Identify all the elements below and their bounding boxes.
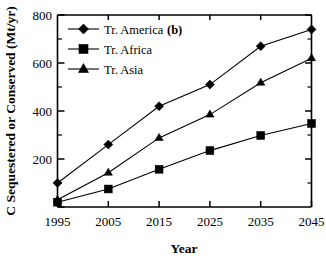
data-point-marker	[54, 198, 62, 206]
data-point-marker	[155, 165, 163, 173]
data-point-marker	[257, 132, 265, 140]
data-point-marker	[308, 120, 316, 128]
x-tick-label-2035: 2035	[248, 214, 274, 229]
x-tick-label-2005: 2005	[95, 214, 121, 229]
square-marker-icon	[79, 45, 88, 54]
line-chart: 800 600 400 200 1995 2005 2015 2025 2035…	[0, 0, 326, 267]
legend-label-tr-africa: Tr. Africa	[104, 43, 153, 57]
data-point-marker	[206, 147, 214, 155]
x-tick-label-1995: 1995	[45, 214, 71, 229]
x-tick-label-2045: 2045	[299, 214, 325, 229]
legend-label-tr-america: Tr. America	[104, 23, 164, 37]
x-tick-label-2015: 2015	[146, 214, 172, 229]
x-axis-title: Year	[171, 241, 198, 256]
panel-label: (b)	[167, 23, 182, 37]
legend-label-tr-asia: Tr. Asia	[104, 63, 144, 77]
data-point-marker	[104, 185, 112, 193]
y-axis-title: C Sequestered or Conserved (Mt/yr)	[3, 6, 18, 215]
y-tick-label-800: 800	[33, 8, 53, 23]
y-tick-label-400: 400	[33, 104, 53, 119]
y-tick-label-600: 600	[33, 56, 53, 71]
chart-figure: 800 600 400 200 1995 2005 2015 2025 2035…	[0, 0, 326, 267]
y-tick-label-200: 200	[33, 152, 53, 167]
x-tick-label-2025: 2025	[197, 214, 223, 229]
